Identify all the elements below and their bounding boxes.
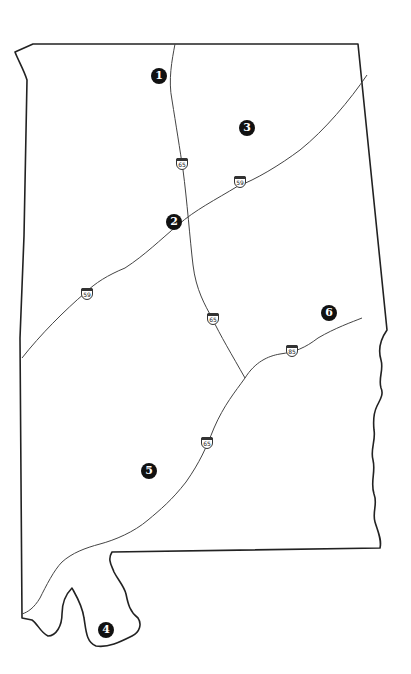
map-marker-3[interactable]: 3: [239, 120, 255, 136]
shield-route-number: 65: [176, 161, 188, 168]
shield-route-number: 59: [81, 291, 93, 298]
map-marker-5[interactable]: 5: [141, 463, 157, 479]
interstate-shield-icon: 85: [286, 345, 298, 357]
interstate-shield-icon: 59: [81, 288, 93, 300]
map-marker-6[interactable]: 6: [321, 305, 337, 321]
map-marker-1[interactable]: 1: [151, 68, 167, 84]
shield-route-number: 85: [286, 348, 298, 355]
alabama-map: [0, 0, 411, 674]
interstate-shield-icon: 65: [207, 313, 219, 325]
map-marker-4[interactable]: 4: [98, 622, 114, 638]
shield-route-number: 65: [207, 316, 219, 323]
interstate-shield-icon: 65: [201, 437, 213, 449]
interstate-shield-icon: 65: [176, 158, 188, 170]
shield-route-number: 59: [234, 179, 246, 186]
interstate-shield-icon: 59: [234, 176, 246, 188]
map-marker-2[interactable]: 2: [166, 214, 182, 230]
shield-route-number: 65: [201, 440, 213, 447]
